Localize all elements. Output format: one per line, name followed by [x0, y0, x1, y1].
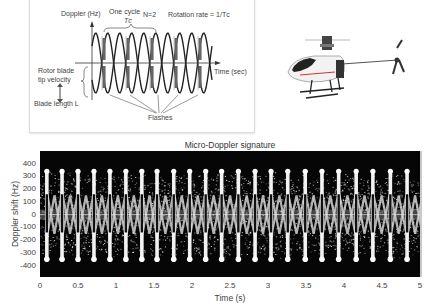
y-tick-label: -400: [20, 262, 36, 270]
tc-label: Tᴄ: [124, 17, 132, 25]
one-cycle-label: One cycle: [109, 8, 140, 16]
x-tick-label: 1: [114, 281, 118, 290]
blade-length-label: Blade length L: [34, 100, 79, 108]
y-tick-label: 400: [23, 160, 36, 168]
y-tick-label: 100: [23, 198, 36, 206]
x-tick-label: 2: [190, 281, 194, 290]
x-tick-label: 4.5: [376, 281, 387, 290]
x-tick-label: 1.5: [148, 281, 159, 290]
spectrogram-canvas: [40, 151, 420, 277]
y-arrow-icon: [90, 21, 94, 27]
helicopter-image: [280, 20, 428, 120]
y-tick-label: -100: [20, 223, 36, 231]
n-label: N=2: [143, 11, 156, 19]
rotation-rate-label: Rotation rate = 1/Tᴄ: [168, 11, 230, 19]
y-tick-label: 300: [23, 172, 36, 180]
y-tick-label: 0: [32, 211, 36, 219]
x-tick-label: 0: [38, 281, 42, 290]
x-axis-label: Time (s): [40, 293, 420, 303]
y-axis-label: Doppler shift (Hz): [10, 169, 20, 259]
x-tick-label: 0.5: [72, 281, 83, 290]
rotor-tip-label: Rotor blade: [38, 67, 74, 75]
doppler-axis-label: Doppler (Hz): [61, 10, 101, 18]
y-tick-label: 200: [23, 185, 36, 193]
x-tick-label: 2.5: [224, 281, 235, 290]
y-tick-label: -300: [20, 249, 36, 257]
x-tick-label: 5: [418, 281, 422, 290]
x-tick-label: 3: [266, 281, 270, 290]
flashes-label: Flashes: [148, 114, 173, 122]
time-axis-label: Time (sec): [214, 68, 247, 76]
spectrogram-plot: [40, 151, 422, 277]
x-tick-label: 4: [342, 281, 346, 290]
chart-title: Micro-Doppler signature: [40, 140, 420, 150]
rotor-tip-label-2: tip velocity: [38, 76, 71, 84]
x-arrow-icon: [215, 61, 221, 65]
x-tick-label: 3.5: [300, 281, 311, 290]
y-tick-label: -200: [20, 236, 36, 244]
